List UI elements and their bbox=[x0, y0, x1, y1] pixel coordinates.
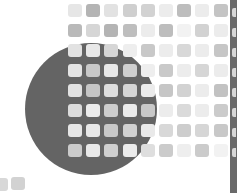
grid-tile bbox=[141, 124, 155, 137]
strip-notch bbox=[232, 108, 236, 117]
grid-tile bbox=[68, 124, 82, 137]
grid-tile bbox=[86, 44, 100, 57]
grid-tile bbox=[0, 178, 8, 191]
grid-tile bbox=[68, 144, 82, 157]
grid-tile bbox=[104, 104, 118, 117]
grid-tile bbox=[86, 24, 100, 37]
grid-tile bbox=[104, 24, 118, 37]
grid-tile bbox=[177, 4, 191, 17]
grid-tile bbox=[123, 104, 137, 117]
grid-tile bbox=[68, 24, 82, 37]
grid-tile bbox=[104, 4, 118, 17]
grid-tile bbox=[141, 104, 155, 117]
grid-tile bbox=[195, 84, 209, 97]
grid-tile bbox=[177, 84, 191, 97]
grid-tile bbox=[123, 64, 137, 77]
grid-tile bbox=[214, 144, 228, 157]
grid-tile bbox=[177, 64, 191, 77]
grid-tile bbox=[68, 44, 82, 57]
grid-tile bbox=[195, 144, 209, 157]
grid-tile bbox=[159, 124, 173, 137]
grid-tile bbox=[214, 44, 228, 57]
grid-tile bbox=[123, 124, 137, 137]
grid-tile bbox=[214, 24, 228, 37]
grid-tile bbox=[214, 64, 228, 77]
grid-tile bbox=[86, 64, 100, 77]
grid-tile bbox=[214, 124, 228, 137]
grid-tile bbox=[195, 124, 209, 137]
grid-tile bbox=[159, 64, 173, 77]
grid-tile bbox=[141, 144, 155, 157]
grid-tile bbox=[177, 24, 191, 37]
grid-tile bbox=[68, 84, 82, 97]
grid-tile bbox=[159, 4, 173, 17]
grid-tile bbox=[123, 4, 137, 17]
grid-tile bbox=[86, 4, 100, 17]
strip-notch bbox=[232, 148, 236, 157]
grid-tile bbox=[141, 44, 155, 57]
grid-tile bbox=[159, 104, 173, 117]
grid-tile bbox=[195, 4, 209, 17]
grid-tile bbox=[177, 44, 191, 57]
grid-tile bbox=[68, 104, 82, 117]
grid-tile bbox=[159, 44, 173, 57]
grid-tile bbox=[68, 64, 82, 77]
grid-tile bbox=[177, 104, 191, 117]
grid-tile bbox=[159, 84, 173, 97]
strip-notch bbox=[232, 48, 236, 57]
grid-tile bbox=[86, 104, 100, 117]
grid-tile bbox=[86, 84, 100, 97]
grid-tile bbox=[195, 64, 209, 77]
strip-notch bbox=[232, 128, 236, 137]
abstract-graphic bbox=[0, 0, 237, 193]
grid-tile bbox=[214, 104, 228, 117]
grid-tile bbox=[104, 64, 118, 77]
grid-tile bbox=[104, 144, 118, 157]
grid-tile bbox=[68, 4, 82, 17]
grid-tile bbox=[195, 104, 209, 117]
strip-notch bbox=[232, 28, 236, 37]
grid-tile bbox=[141, 24, 155, 37]
grid-tile bbox=[123, 44, 137, 57]
grid-tile bbox=[195, 24, 209, 37]
grid-tile bbox=[123, 144, 137, 157]
grid-tile bbox=[11, 177, 25, 190]
grid-tile bbox=[177, 124, 191, 137]
grid-tile bbox=[104, 124, 118, 137]
grid-tile bbox=[141, 4, 155, 17]
grid-tile bbox=[86, 144, 100, 157]
grid-tile bbox=[141, 64, 155, 77]
grid-tile bbox=[123, 24, 137, 37]
grid-tile bbox=[123, 84, 137, 97]
grid-tile bbox=[159, 144, 173, 157]
grid-tile bbox=[86, 124, 100, 137]
strip-notch bbox=[232, 88, 236, 97]
grid-tile bbox=[104, 44, 118, 57]
grid-tile bbox=[177, 144, 191, 157]
grid-tile bbox=[159, 24, 173, 37]
grid-tile bbox=[214, 84, 228, 97]
strip-notch bbox=[232, 8, 236, 17]
grid-tile bbox=[104, 84, 118, 97]
grid-tile bbox=[195, 44, 209, 57]
grid-tile bbox=[141, 84, 155, 97]
grid-tile bbox=[214, 4, 228, 17]
strip-notch bbox=[232, 68, 236, 77]
